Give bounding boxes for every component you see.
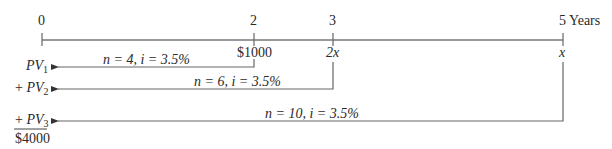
arrow-1-label: n = 4, i = 3.5% [103, 53, 190, 67]
arrow-2-label: n = 6, i = 3.5% [194, 75, 281, 89]
pv-3: + PV3 [15, 113, 49, 131]
pv-1: PV1 [26, 59, 48, 77]
tick-label-0: 0 [38, 14, 45, 28]
tick-label-5-years: 5 Years [559, 14, 600, 28]
cash-flow-year-2: $1000 [237, 46, 272, 60]
total-amount: $4000 [15, 132, 50, 146]
tick-label-2: 2 [250, 14, 257, 28]
cash-flow-year-5: x [559, 46, 565, 60]
cash-flow-year-3: 2x [326, 46, 339, 60]
timeline-diagram [0, 0, 612, 149]
arrow-3-label: n = 10, i = 3.5% [265, 107, 359, 121]
pv-2: + PV2 [15, 81, 49, 99]
tick-label-3: 3 [329, 14, 336, 28]
